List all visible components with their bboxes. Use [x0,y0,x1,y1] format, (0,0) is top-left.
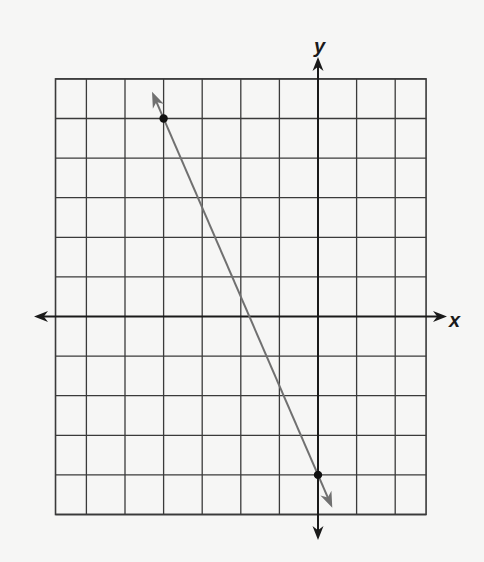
graphed-line [152,92,332,508]
x-axis-label: x [449,310,460,330]
coordinate-plane [0,0,484,562]
y-axis-label: y [314,36,325,56]
line-segment [156,101,328,499]
plotted-point [314,471,322,479]
plotted-point [159,114,167,122]
